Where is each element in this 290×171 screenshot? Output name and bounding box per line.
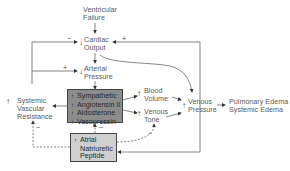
neuro-item: ↑Vasopressin: [71, 118, 119, 127]
cardiac-output-label: Cardiac Output: [84, 36, 109, 52]
up-arrow-icon: ↑: [71, 119, 75, 127]
edema-line2: Systemic Edema: [229, 106, 288, 114]
svr-label: Systemic Vascular Resistance: [17, 97, 53, 121]
up-arrow-icon: ↑: [74, 137, 78, 145]
sign-minus: −: [148, 130, 152, 137]
sign-plus: +: [63, 64, 67, 71]
anp-line1: Atrial: [80, 135, 96, 144]
venous-pressure-line2: Pressure: [188, 106, 217, 114]
ventricular-failure-label: Ventricular Failure: [83, 6, 117, 22]
arterial-pressure-label: Arterial Pressure: [84, 65, 113, 81]
up-arrow-icon: ↑: [71, 93, 75, 101]
neuro-item-label: Vasopressin: [77, 117, 116, 126]
edema-label: Pulmonary Edema Systemic Edema: [229, 98, 288, 114]
anp-box: ↑Atrial Natriuretic Peptide: [70, 133, 117, 162]
cardiac-output-line2: Output: [84, 44, 109, 52]
neurohormonal-box: ↑Sympathetic ↑Angiotensin II ↑Aldosteron…: [67, 89, 123, 123]
sign-minus: −: [67, 35, 71, 42]
up-arrow-icon: ↑: [71, 102, 75, 110]
down-arrow-icon: ↓: [79, 68, 83, 76]
down-arrow-icon: ↓: [79, 39, 83, 47]
up-arrow-icon: ↑: [137, 110, 141, 118]
anp-line3: Peptide: [74, 152, 113, 160]
up-arrow-icon: ↑: [6, 98, 10, 106]
up-arrow-icon: ↑: [71, 110, 75, 118]
sign-minus: −: [99, 124, 103, 131]
arterial-pressure-line2: Pressure: [84, 73, 113, 81]
up-arrow-icon: ↑: [182, 102, 186, 110]
sign-plus: +: [122, 35, 126, 42]
blood-volume-label: Blood Volume: [144, 87, 168, 103]
venous-tone-line2: Tone: [144, 116, 168, 124]
blood-volume-line2: Volume: [144, 95, 168, 103]
venous-tone-label: Venous Tone: [144, 108, 168, 124]
sign-minus: −: [36, 124, 40, 131]
venous-pressure-label: Venous Pressure: [188, 98, 217, 114]
ventricular-failure-line2: Failure: [83, 14, 117, 22]
up-arrow-icon: ↑: [137, 90, 141, 98]
svr-line3: Resistance: [17, 113, 53, 121]
